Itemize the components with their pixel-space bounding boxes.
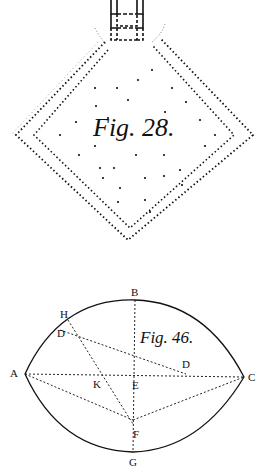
fig28-caption: Fig. 28. — [92, 113, 175, 142]
point-label-a: A — [10, 367, 18, 379]
dot — [204, 145, 206, 147]
dot — [163, 154, 165, 156]
fig46-caption: Fig. 46. — [139, 328, 193, 347]
point-label-g: G — [129, 456, 137, 468]
dot — [78, 154, 80, 156]
point-label-c: C — [248, 371, 255, 383]
dot — [94, 87, 96, 89]
dot — [171, 87, 173, 89]
point-label-e: E — [132, 379, 139, 391]
dot — [59, 134, 61, 136]
dot — [137, 79, 139, 81]
dot — [185, 101, 187, 103]
dot — [94, 145, 96, 147]
fig46-diagram: Fig. 46. ABCEFGHDDK — [10, 286, 255, 468]
dot — [149, 211, 151, 213]
dot — [95, 105, 97, 107]
point-label-f: F — [133, 428, 139, 440]
dot — [119, 187, 121, 189]
point-label-d2: D — [182, 358, 190, 370]
dot — [144, 199, 146, 201]
dot — [214, 134, 216, 136]
dot — [151, 69, 153, 71]
dot — [117, 201, 119, 203]
point-label-k: K — [93, 378, 101, 390]
point-label-h: H — [60, 308, 68, 320]
point-label-d1: D — [57, 327, 65, 339]
dot — [99, 167, 101, 169]
dot — [75, 121, 77, 123]
fig28-diagram: Fig. 28. — [11, 0, 253, 240]
dot — [127, 99, 129, 101]
dot — [113, 167, 115, 169]
dot — [144, 177, 146, 179]
dot — [179, 169, 181, 171]
dot — [116, 87, 118, 89]
figure-canvas: Fig. 28. Fig. 46. ABCEFGHDDK — [0, 0, 267, 475]
engraving-plate: Fig. 28. Fig. 46. ABCEFGHDDK — [0, 0, 267, 475]
dot — [135, 154, 137, 156]
dot — [163, 175, 165, 177]
dot — [199, 119, 201, 121]
dot — [102, 177, 104, 179]
tower-icon — [111, 0, 143, 40]
point-label-b: B — [131, 286, 138, 298]
dot — [181, 184, 183, 186]
